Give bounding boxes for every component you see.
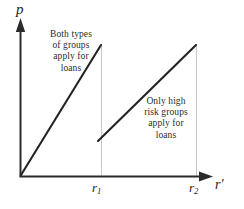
supply-curve-figure: p r′ r1 r2 Both types of groups apply fo…: [0, 0, 244, 209]
tick-label-r2: r2: [189, 180, 198, 196]
tick-label-r1: r1: [92, 180, 101, 196]
x-axis-label: r′: [215, 177, 224, 193]
annotation-both-types-line-2: of groups: [38, 40, 104, 51]
annotation-both-types: Both types of groups apply for loans: [38, 29, 104, 74]
annotation-only-high-risk-line-4: loans: [133, 130, 199, 141]
y-axis-arrowhead: [16, 18, 25, 32]
annotation-only-high-risk: Only high risk groups apply for loans: [133, 96, 199, 141]
annotation-only-high-risk-line-1: Only high: [133, 96, 199, 107]
annotation-both-types-line-1: Both types: [38, 29, 104, 40]
tick-label-r1-subscript: 1: [97, 186, 101, 196]
tick-label-r2-subscript: 2: [194, 186, 198, 196]
annotation-only-high-risk-line-3: apply for: [133, 118, 199, 129]
x-axis-arrowhead: [199, 172, 213, 182]
figure-canvas: [0, 0, 244, 209]
annotation-both-types-line-4: loans: [38, 63, 104, 74]
annotation-only-high-risk-line-2: risk groups: [133, 107, 199, 118]
annotation-both-types-line-3: apply for: [38, 51, 104, 62]
y-axis-label: p: [16, 1, 24, 18]
